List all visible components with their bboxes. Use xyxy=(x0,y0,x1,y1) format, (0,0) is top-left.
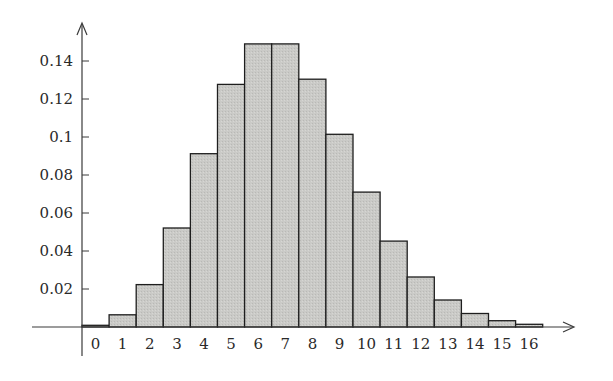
bar-7 xyxy=(272,44,299,327)
x-tick-label: 11 xyxy=(384,335,403,353)
x-tick-label: 5 xyxy=(226,335,236,353)
x-tick-label: 12 xyxy=(411,335,430,353)
y-tick-label: 0.04 xyxy=(40,242,73,260)
bar-4 xyxy=(190,154,217,327)
bar-15 xyxy=(489,321,516,327)
x-tick-label: 1 xyxy=(118,335,128,353)
x-tick-label: 8 xyxy=(308,335,318,353)
y-tick-label: 0.02 xyxy=(40,280,73,298)
bar-12 xyxy=(407,277,434,327)
x-tick-label: 4 xyxy=(199,335,209,353)
x-tick-label: 0 xyxy=(91,335,101,353)
bar-6 xyxy=(245,44,272,327)
x-tick-label: 6 xyxy=(253,335,263,353)
y-tick-label: 0.14 xyxy=(40,52,73,70)
bar-14 xyxy=(461,314,488,328)
bar-13 xyxy=(434,300,461,327)
x-tick-label: 3 xyxy=(172,335,182,353)
bar-1 xyxy=(109,315,136,327)
y-tick-label: 0.08 xyxy=(40,166,73,184)
x-tick-label: 9 xyxy=(335,335,345,353)
x-tick-label: 7 xyxy=(281,335,291,353)
y-tick-label: 0.12 xyxy=(40,90,73,108)
y-tick-label: 0.1 xyxy=(49,128,73,146)
histogram-bars xyxy=(82,44,543,327)
bar-11 xyxy=(380,241,407,327)
x-axis: 012345678910111213141516 xyxy=(32,322,574,353)
bar-9 xyxy=(326,134,353,327)
y-tick-label: 0.06 xyxy=(40,204,73,222)
x-tick-label: 10 xyxy=(357,335,376,353)
bar-2 xyxy=(136,285,163,327)
bar-8 xyxy=(299,79,326,327)
x-tick-label: 13 xyxy=(438,335,457,353)
y-axis: 0.020.040.060.080.10.120.14 xyxy=(40,23,89,356)
x-tick-label: 16 xyxy=(520,335,539,353)
x-tick-label: 15 xyxy=(493,335,512,353)
poisson-histogram-chart: 0.020.040.060.080.10.120.14 012345678910… xyxy=(0,0,613,381)
x-tick-label: 2 xyxy=(145,335,155,353)
x-tick-label: 14 xyxy=(465,335,484,353)
bar-5 xyxy=(218,84,245,327)
bar-3 xyxy=(163,228,190,327)
bar-10 xyxy=(353,192,380,327)
